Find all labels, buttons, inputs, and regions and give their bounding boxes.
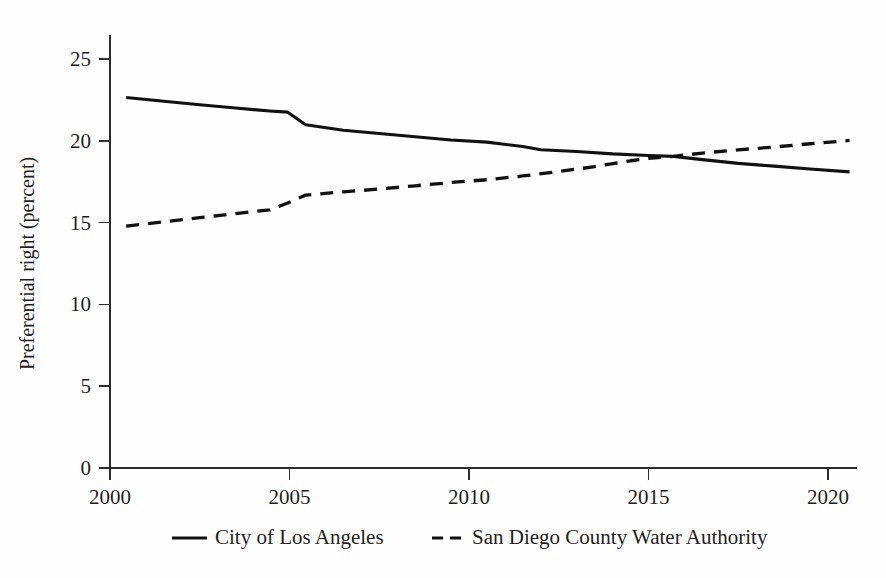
series-line-0 (126, 97, 849, 171)
axis-labels: 051015202520002005201020152020Preferenti… (16, 47, 849, 509)
chart-figure: 051015202520002005201020152020Preferenti… (0, 0, 886, 578)
y-tick-label-10: 10 (70, 292, 91, 316)
y-tick-label-25: 25 (70, 47, 91, 71)
y-tick-label-0: 0 (81, 456, 92, 480)
y-axis-title: Preferential right (percent) (16, 157, 39, 370)
legend-label-1: San Diego County Water Authority (472, 525, 768, 549)
x-tick-label-2005: 2005 (269, 485, 311, 509)
x-tick-label-2020: 2020 (807, 485, 849, 509)
series-line-1 (126, 140, 849, 226)
x-tick-label-2010: 2010 (448, 485, 490, 509)
chart-legend: City of Los AngelesSan Diego County Wate… (172, 525, 768, 549)
y-tick-label-5: 5 (81, 374, 92, 398)
series-lines (126, 97, 849, 226)
axes (99, 35, 857, 480)
x-tick-label-2000: 2000 (89, 485, 131, 509)
legend-label-0: City of Los Angeles (215, 525, 384, 549)
x-tick-label-2015: 2015 (628, 485, 670, 509)
line-chart-svg: 051015202520002005201020152020Preferenti… (0, 0, 886, 578)
y-tick-label-15: 15 (70, 211, 91, 235)
y-tick-label-20: 20 (70, 129, 91, 153)
